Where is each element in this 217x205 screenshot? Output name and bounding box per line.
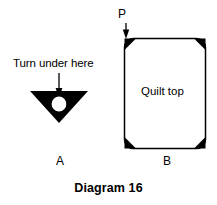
diagram-figure: Turn under here P P Quilt top A B Diagra… — [0, 0, 217, 205]
quilt-top-label: Quilt top — [141, 86, 184, 98]
diagram-graphics — [0, 0, 217, 205]
panel-label-a: A — [56, 155, 64, 167]
p-marker-letter: P — [66, 98, 73, 109]
p-marker-circle — [51, 96, 67, 112]
panel-label-b: B — [163, 155, 171, 167]
diagram-caption: Diagram 16 — [0, 182, 217, 195]
panel-b-arrow — [123, 23, 129, 39]
quilt-pointer-label: P — [118, 8, 126, 20]
turn-under-here-label: Turn under here — [13, 58, 94, 70]
